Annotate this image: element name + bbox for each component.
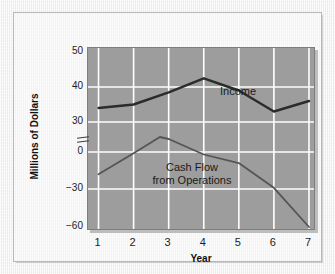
plot-area	[87, 47, 315, 230]
y-tick-label: 50	[72, 46, 83, 56]
x-tick-label: 4	[193, 236, 213, 248]
x-tick-label: 7	[298, 236, 318, 248]
y-axis-title: Millions of Dollars	[29, 77, 40, 197]
gridlines	[88, 48, 315, 230]
y-tick-label: 30	[72, 116, 83, 126]
x-axis-title: Year	[87, 253, 315, 264]
x-tick-label: 1	[88, 236, 108, 248]
x-tick-label: 2	[123, 236, 143, 248]
series-label-income: Income	[220, 85, 256, 98]
x-tick-label: 3	[158, 236, 178, 248]
figure-frame: 5040300−30−60 1234567 Year Millions of D…	[13, 12, 322, 262]
y-tick-label: −60	[66, 221, 83, 231]
chart-plot-svg	[88, 48, 315, 230]
y-axis-break-icon	[77, 135, 89, 145]
series-label-cash-flow: Cash Flow from Operations	[142, 161, 242, 187]
y-tick-label: 40	[72, 81, 83, 91]
series-label-cash-flow-line1: Cash Flow	[142, 161, 242, 174]
figure-page: 5040300−30−60 1234567 Year Millions of D…	[0, 0, 335, 274]
series-label-cash-flow-line2: from Operations	[142, 174, 242, 187]
x-tick-label: 6	[263, 236, 283, 248]
y-tick-label: −30	[66, 183, 83, 193]
x-tick-label: 5	[228, 236, 248, 248]
y-tick-label: 0	[77, 146, 83, 156]
